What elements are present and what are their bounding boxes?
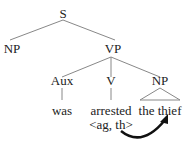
word-was: was xyxy=(52,104,72,117)
word-arrested: arrested xyxy=(90,104,131,117)
node-s: S xyxy=(59,7,66,20)
word-the-thief: the thief xyxy=(139,104,182,117)
node-vp: VP xyxy=(105,42,122,55)
node-v: V xyxy=(106,74,115,87)
node-np-subject: NP xyxy=(4,42,21,55)
node-np-object: NP xyxy=(152,74,169,87)
node-aux: Aux xyxy=(51,74,73,87)
theta-grid: <ag, th> xyxy=(89,118,133,131)
